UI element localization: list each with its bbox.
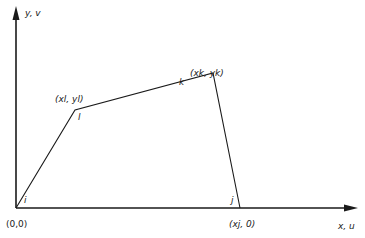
node-k-label: k (179, 78, 184, 87)
node-j-label: j (231, 196, 234, 205)
node-i-coord: (0,0) (6, 220, 27, 229)
x-axis-arrowhead-icon (344, 205, 358, 212)
element-outline (16, 73, 240, 208)
node-i-label: i (24, 196, 27, 205)
node-l-coord: (xl, yl) (55, 95, 83, 104)
y-axis-label: y, v (25, 9, 41, 18)
node-l-label: l (78, 113, 81, 122)
x-axis-label: x, u (338, 222, 355, 231)
node-j-coord: (xj, 0) (229, 220, 255, 229)
element-diagram (0, 0, 365, 238)
y-axis-arrowhead-icon (13, 6, 20, 20)
node-k-coord: (xk, yk) (190, 69, 224, 78)
